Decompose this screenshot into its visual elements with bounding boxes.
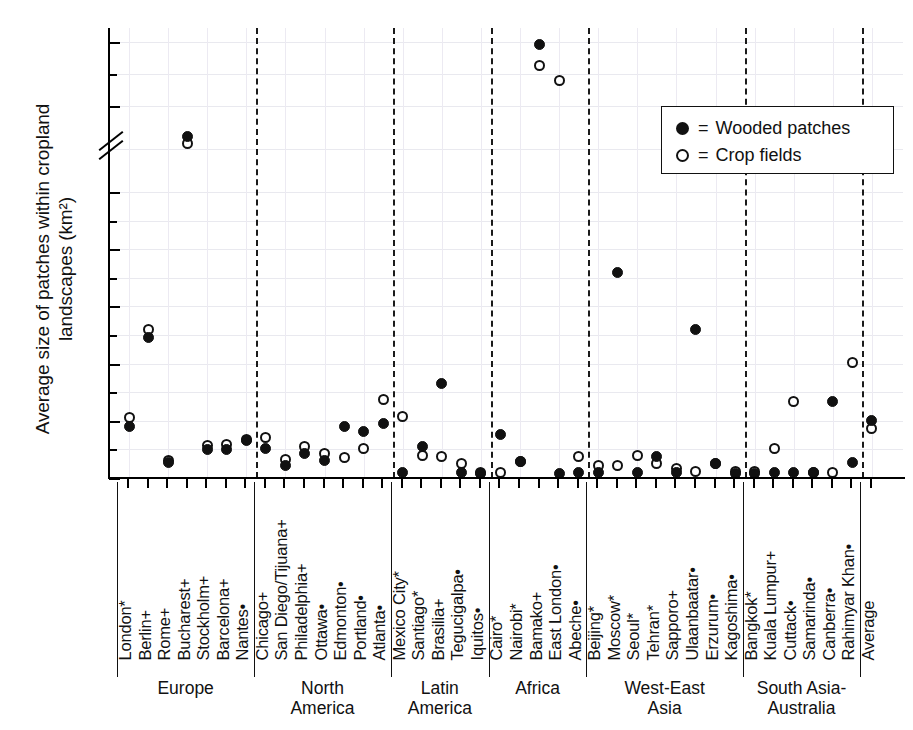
data-point-wooded-patches	[534, 39, 545, 50]
gridline-vertical	[520, 28, 521, 478]
data-point-wooded-patches	[417, 441, 428, 452]
gridline-vertical	[129, 28, 130, 478]
legend-equals: =	[698, 145, 709, 166]
data-point-wooded-patches	[202, 444, 213, 455]
y-axis-tick	[109, 249, 120, 251]
gridline-vertical	[325, 28, 326, 478]
chart-root: Average size of patches within cropland …	[0, 0, 913, 730]
y-axis-tick	[109, 449, 117, 451]
region-separator	[862, 28, 864, 478]
data-point-wooded-patches	[690, 324, 701, 335]
y-axis-tick	[109, 364, 120, 366]
data-point-crop-fields	[632, 450, 643, 461]
data-point-crop-fields	[358, 443, 369, 454]
gridline-vertical	[364, 28, 365, 478]
plot-gridlines	[110, 28, 903, 478]
y-axis-tick	[109, 106, 120, 108]
region-divider	[586, 482, 587, 677]
gridline-horizontal	[110, 249, 903, 250]
region-divider	[391, 482, 392, 677]
data-point-crop-fields	[436, 451, 447, 462]
y-axis-tick	[109, 42, 120, 44]
data-point-wooded-patches	[241, 435, 252, 446]
gridline-vertical	[442, 28, 443, 478]
gridline-horizontal	[110, 421, 903, 422]
legend-label-wooded: Wooded patches	[716, 118, 851, 139]
data-point-wooded-patches	[378, 418, 389, 429]
gridline-horizontal	[110, 192, 903, 193]
data-point-crop-fields	[260, 432, 271, 443]
y-axis-tick	[109, 306, 120, 308]
region-divider	[117, 482, 118, 677]
y-axis-tick	[109, 335, 117, 337]
gridline-vertical	[872, 28, 873, 478]
data-point-wooded-patches	[495, 429, 506, 440]
data-point-wooded-patches	[124, 421, 135, 432]
data-point-wooded-patches	[827, 396, 838, 407]
data-point-crop-fields	[573, 451, 584, 462]
region-separator	[491, 28, 493, 478]
data-point-wooded-patches	[339, 421, 350, 432]
region-divider	[743, 482, 744, 677]
data-point-crop-fields	[847, 357, 858, 368]
legend-item-wooded: = Wooded patches	[676, 115, 893, 142]
data-point-crop-fields	[690, 466, 701, 477]
region-label: South Asia- Australia	[743, 678, 860, 718]
data-point-wooded-patches	[612, 267, 623, 278]
gridline-horizontal	[110, 392, 903, 393]
gridline-horizontal	[110, 306, 903, 307]
y-axis-tick	[109, 278, 117, 280]
gridline-vertical	[833, 28, 834, 478]
data-point-wooded-patches	[358, 426, 369, 437]
gridline-horizontal	[110, 74, 903, 75]
gridline-vertical	[794, 28, 795, 478]
gridline-vertical	[207, 28, 208, 478]
gridline-vertical	[598, 28, 599, 478]
data-point-wooded-patches	[260, 443, 271, 454]
y-axis-tick	[109, 392, 117, 394]
gridline-vertical	[246, 28, 247, 478]
legend-equals: =	[698, 118, 709, 139]
gridline-vertical	[481, 28, 482, 478]
data-point-crop-fields	[397, 411, 408, 422]
region-separator	[745, 28, 747, 478]
data-point-wooded-patches	[319, 455, 330, 466]
gridline-vertical	[676, 28, 677, 478]
legend: = Wooded patches = Crop fields	[661, 106, 894, 174]
data-point-wooded-patches	[847, 457, 858, 468]
plot-area: 0123451020	[108, 28, 903, 478]
gridline-horizontal	[110, 335, 903, 336]
data-point-crop-fields	[339, 452, 350, 463]
y-axis-title: Average size of patches within cropland …	[31, 39, 77, 499]
region-label: West-East Asia	[586, 678, 742, 718]
legend-label-crop: Crop fields	[716, 145, 802, 166]
gridline-vertical	[755, 28, 756, 478]
data-point-crop-fields	[788, 396, 799, 407]
data-point-wooded-patches	[221, 444, 232, 455]
region-separator	[588, 28, 590, 478]
data-point-crop-fields	[612, 460, 623, 471]
region-separator	[256, 28, 258, 478]
region-label: North America	[254, 678, 391, 718]
data-point-crop-fields	[769, 443, 780, 454]
filled-circle-icon	[676, 122, 689, 135]
gridline-horizontal	[110, 364, 903, 365]
y-axis-tick	[109, 74, 117, 76]
region-divider	[254, 482, 255, 677]
gridline-vertical	[285, 28, 286, 478]
data-point-crop-fields	[378, 394, 389, 405]
open-circle-icon	[676, 149, 689, 162]
region-group-labels: EuropeNorth AmericaLatin AmericaAfricaWe…	[0, 480, 913, 730]
region-label: Latin America	[391, 678, 489, 718]
gridline-vertical	[716, 28, 717, 478]
data-point-wooded-patches	[163, 457, 174, 468]
x-axis-line	[108, 477, 905, 479]
y-axis-tick	[109, 421, 120, 423]
y-axis-tick	[109, 221, 117, 223]
gridline-vertical	[559, 28, 560, 478]
y-axis-tick	[109, 192, 120, 194]
gridline-horizontal	[110, 278, 903, 279]
data-point-wooded-patches	[515, 456, 526, 467]
region-separator	[393, 28, 395, 478]
data-point-wooded-patches	[710, 458, 721, 469]
